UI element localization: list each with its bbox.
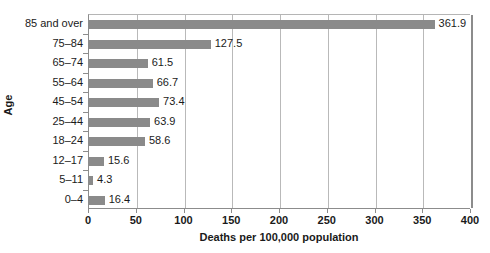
x-axis-tick-mark (470, 209, 471, 213)
x-axis-tick-mark (422, 209, 423, 213)
y-axis-tick-mark (83, 151, 88, 152)
bar-value-label: 66.7 (157, 76, 178, 89)
y-axis-tick-label: 0–4 (65, 193, 83, 206)
bar-value-label: 4.3 (97, 173, 112, 186)
y-axis-tick-mark (83, 73, 88, 74)
bar-row: 127.5 (89, 35, 470, 55)
y-axis-tick-label: 18–24 (52, 134, 83, 147)
bar-row: 73.4 (89, 93, 470, 113)
gridline (471, 15, 473, 208)
x-axis-tick-label: 250 (318, 214, 336, 226)
y-axis-tick-mark (83, 53, 88, 54)
bar (89, 40, 211, 49)
x-axis-tick-label: 400 (461, 214, 479, 226)
x-axis-tick-label: 350 (413, 214, 431, 226)
bar (89, 196, 105, 205)
bar-value-label: 127.5 (215, 37, 243, 50)
bar-row: 361.9 (89, 15, 470, 35)
x-axis-tick-labels: 050100150200250300350400 (0, 214, 490, 230)
y-axis-tick-mark (83, 190, 88, 191)
x-axis-title: Deaths per 100,000 population (88, 231, 470, 243)
x-axis-tick-mark (375, 209, 376, 213)
bar-value-label: 361.9 (439, 17, 467, 30)
x-axis-tick-label: 300 (365, 214, 383, 226)
x-axis-tick-mark (184, 209, 185, 213)
bar-row: 15.6 (89, 152, 470, 172)
bar-row: 66.7 (89, 74, 470, 94)
bar (89, 137, 145, 146)
y-axis-tick-mark (83, 170, 88, 171)
bar-row: 16.4 (89, 191, 470, 211)
x-axis-tick-mark (231, 209, 232, 213)
bar-value-label: 61.5 (152, 56, 173, 69)
bar-value-label: 73.4 (163, 95, 184, 108)
x-axis-tick-label: 0 (85, 214, 91, 226)
bar-row: 63.9 (89, 113, 470, 133)
bar-value-label: 15.6 (108, 154, 129, 167)
y-axis-tick-label: 5–11 (59, 173, 83, 186)
x-axis-tick-mark (88, 209, 89, 213)
bar (89, 176, 93, 185)
x-axis-tick-label: 100 (174, 214, 192, 226)
y-axis-tick-labels: 85 and over75–8465–7455–6445–5425–4418–2… (14, 14, 86, 209)
x-axis-tick-mark (327, 209, 328, 213)
bar (89, 59, 148, 68)
bar-value-label: 63.9 (154, 115, 175, 128)
x-axis-tick-label: 150 (222, 214, 240, 226)
y-axis-tick-label: 85 and over (25, 17, 83, 30)
bar (89, 118, 150, 127)
bar (89, 79, 153, 88)
y-axis-tick-mark (83, 34, 88, 35)
y-axis-tick-label: 55–64 (52, 76, 83, 89)
y-axis-title-text: Age (2, 95, 14, 116)
bar-row: 58.6 (89, 132, 470, 152)
x-axis-tick-label: 200 (270, 214, 288, 226)
bar-row: 61.5 (89, 54, 470, 74)
y-axis-tick-mark (83, 112, 88, 113)
bar (89, 98, 159, 107)
x-axis-tick-mark (279, 209, 280, 213)
bar-value-label: 16.4 (109, 193, 130, 206)
y-axis-tick-label: 75–84 (52, 37, 83, 50)
y-axis-tick-label: 45–54 (52, 95, 83, 108)
bar (89, 157, 104, 166)
bar (89, 20, 435, 29)
y-axis-tick-label: 12–17 (52, 154, 83, 167)
x-axis-tick-mark (136, 209, 137, 213)
y-axis-tick-label: 65–74 (52, 56, 83, 69)
bar-value-label: 58.6 (149, 134, 170, 147)
bar-row: 4.3 (89, 171, 470, 191)
y-axis-tick-mark (83, 131, 88, 132)
bar-chart: Age 85 and over75–8465–7455–6445–5425–44… (0, 0, 490, 253)
x-axis-tick-label: 50 (130, 214, 142, 226)
y-axis-tick-label: 25–44 (52, 115, 83, 128)
plot-area: 361.9127.561.566.773.463.958.615.64.316.… (88, 14, 470, 209)
y-axis-tick-mark (83, 92, 88, 93)
